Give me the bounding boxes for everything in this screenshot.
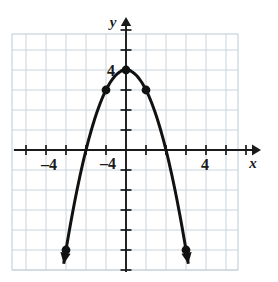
- data-point-marker: [142, 86, 151, 95]
- axes: [14, 17, 261, 272]
- x-axis-arrowhead: [252, 145, 261, 156]
- data-point-marker: [122, 66, 131, 75]
- data-point-marker: [102, 86, 111, 95]
- x-axis-name: x: [248, 155, 257, 171]
- y-tick-label-four: 4: [107, 62, 115, 79]
- y-axis-name: y: [108, 14, 117, 30]
- x-tick-label-negative-four: –4: [40, 156, 57, 173]
- y-tick-label-negative-four: –4: [99, 155, 116, 172]
- data-point-marker: [62, 246, 71, 255]
- x-tick-label-four: 4: [201, 156, 209, 173]
- data-point-marker: [182, 246, 191, 255]
- y-axis-arrowhead: [121, 17, 131, 26]
- coordinate-plane-svg: –444–4xy: [0, 0, 278, 282]
- parabola-graph-figure: –444–4xy: [0, 0, 278, 282]
